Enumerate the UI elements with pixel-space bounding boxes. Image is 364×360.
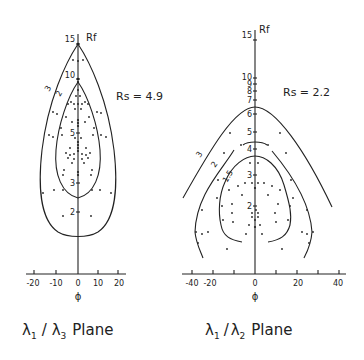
left-ytick-label: 10 bbox=[65, 71, 75, 80]
left-ytick-label: 15 bbox=[65, 35, 75, 44]
right-ytick-label: 3 bbox=[247, 171, 252, 180]
left-ytick-label: 3 bbox=[70, 179, 75, 188]
left-rs-label: Rs = 4.9 bbox=[116, 90, 163, 103]
left-xtick-label: 20 bbox=[114, 279, 124, 288]
right-panel-title: λ1/λ2Plane bbox=[205, 321, 292, 341]
right-ytick-label: 4 bbox=[247, 145, 252, 154]
right-rs-label: Rs = 2.2 bbox=[283, 86, 330, 99]
left-data-points bbox=[42, 43, 112, 217]
right-ytick-label: 5 bbox=[247, 128, 252, 137]
right-xtick-label: 20 bbox=[293, 279, 303, 288]
right-xtick-label: 40 bbox=[333, 279, 343, 288]
left-ytick-label: 2 bbox=[70, 208, 75, 217]
left-x-ticks bbox=[34, 270, 118, 274]
right-y-axis-label: Rf bbox=[259, 24, 270, 35]
left-panel: -20 -10 0 10 20 ϕ 15 10 5 3 2 Rf Rs = 4.… bbox=[22, 32, 163, 341]
left-x-axis-label: ϕ bbox=[75, 291, 82, 302]
right-xtick-label: 0 bbox=[252, 279, 257, 288]
right-contour-3 bbox=[183, 107, 332, 207]
left-y-axis-label: Rf bbox=[86, 32, 97, 43]
right-ytick-label: 15 bbox=[242, 31, 252, 40]
left-panel-title: λ1/λ3Plane bbox=[22, 321, 113, 341]
right-ytick-label: 2 bbox=[247, 202, 252, 211]
left-xtick-label: 0 bbox=[75, 279, 80, 288]
right-xtick-label: -20 bbox=[203, 279, 216, 288]
right-ytick-label: 6 bbox=[247, 110, 252, 119]
left-curve-label-2: 2 bbox=[54, 89, 64, 98]
right-curve-label-2: 2 bbox=[209, 160, 219, 169]
left-xtick-label: -10 bbox=[49, 279, 62, 288]
left-xtick-label: 10 bbox=[93, 279, 103, 288]
rf-phi-figure: -20 -10 0 10 20 ϕ 15 10 5 3 2 Rf Rs = 4.… bbox=[0, 0, 364, 360]
left-ytick-label: 5 bbox=[70, 129, 75, 138]
right-ytick-label: 7 bbox=[247, 96, 252, 105]
right-panel: -40 -20 0 20 40 ϕ 15 10 9 8 7 6 5 4 3 2 … bbox=[182, 24, 346, 341]
right-xtick-label: -40 bbox=[185, 279, 198, 288]
right-x-ticks bbox=[192, 270, 339, 274]
left-curve-label-3: 3 bbox=[43, 84, 53, 93]
right-curve-label-3: 3 bbox=[194, 150, 204, 159]
right-x-axis-label: ϕ bbox=[252, 291, 259, 302]
right-curve-label-1.5: 1.5 bbox=[221, 168, 235, 184]
right-contour-2 bbox=[195, 142, 312, 258]
left-xtick-label: -20 bbox=[26, 279, 39, 288]
right-ytick-label: 8 bbox=[247, 87, 252, 96]
